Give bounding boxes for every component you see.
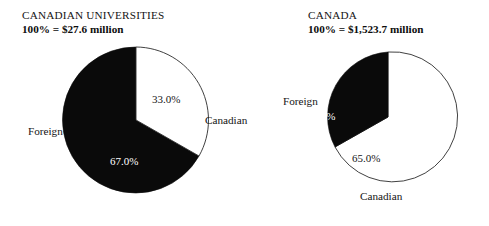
chart-title-left: CANADIAN UNIVERSITIES	[22, 9, 164, 21]
pie-right-value-canadian: 65.0%	[352, 152, 380, 164]
pie-left-label-canadian: Canadian	[205, 114, 247, 126]
pie-right-value-foreign: 35.0%	[307, 110, 335, 122]
pie-left	[63, 46, 209, 194]
chart-title-right: CANADA	[308, 9, 357, 21]
pie-right-label-foreign: Foreign	[283, 95, 318, 107]
chart-subtitle-left: 100% = $27.6 million	[22, 23, 123, 35]
pie-right-label-canadian: Canadian	[360, 190, 402, 202]
chart-subtitle-right: 100% = $1,523.7 million	[308, 23, 423, 35]
pie-left-value-canadian: 33.0%	[152, 93, 180, 105]
pie-right	[323, 51, 453, 183]
chart-canada: CANADA 100% = $1,523.7 million 35.0% 65.…	[250, 0, 489, 226]
pie-left-label-foreign: Foreign	[28, 125, 63, 137]
pie-chart-figure: CANADIAN UNIVERSITIES 100% = $27.6 milli…	[0, 0, 489, 226]
chart-canadian-universities: CANADIAN UNIVERSITIES 100% = $27.6 milli…	[0, 0, 250, 226]
pie-left-value-foreign: 67.0%	[110, 155, 138, 167]
